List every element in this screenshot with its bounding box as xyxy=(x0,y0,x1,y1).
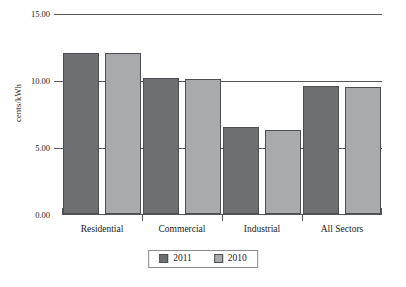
y-axis-tick-label: 10.00 xyxy=(31,77,50,86)
y-axis-tick-label: 5.00 xyxy=(35,144,50,153)
x-axis-tick xyxy=(142,215,143,221)
bar-2011-all-sectors xyxy=(303,86,339,214)
y-axis-tick xyxy=(54,14,62,15)
bar-chart-figure: cents/kWh 0.005.0010.0015.00ResidentialC… xyxy=(0,0,406,287)
bar-2011-industrial xyxy=(223,127,259,214)
x-axis-category-label: Residential xyxy=(81,224,124,234)
y-axis-tick xyxy=(54,81,62,82)
y-axis-tick-label: 0.00 xyxy=(35,211,50,220)
legend-entry-2010[interactable]: 2010 xyxy=(214,254,247,264)
y-axis-title: cents/kWh xyxy=(13,63,23,143)
chart-legend: 2011 2010 xyxy=(148,250,258,268)
bar-2011-commercial xyxy=(143,78,179,214)
plot-area: 0.005.0010.0015.00ResidentialCommercialI… xyxy=(62,14,382,215)
y-axis-tick xyxy=(54,148,62,149)
legend-swatch-icon xyxy=(214,254,223,263)
bar-2010-commercial xyxy=(185,79,221,214)
legend-swatch-icon xyxy=(159,254,168,263)
gridline xyxy=(62,14,382,15)
legend-label: 2011 xyxy=(173,254,192,264)
bar-2010-residential xyxy=(105,53,141,214)
bar-2010-all-sectors xyxy=(345,87,381,214)
x-axis-category-label: All Sectors xyxy=(321,224,363,234)
y-axis-tick-label: 15.00 xyxy=(31,10,50,19)
bar-2011-residential xyxy=(63,53,99,214)
x-axis-end-tick xyxy=(381,208,382,215)
x-axis-tick xyxy=(222,215,223,221)
x-axis-tick xyxy=(302,215,303,221)
x-axis-category-label: Commercial xyxy=(159,224,206,234)
legend-label: 2010 xyxy=(228,254,247,264)
x-axis-category-label: Industrial xyxy=(244,224,280,234)
legend-entry-2011[interactable]: 2011 xyxy=(159,254,192,264)
bar-2010-industrial xyxy=(265,130,301,214)
